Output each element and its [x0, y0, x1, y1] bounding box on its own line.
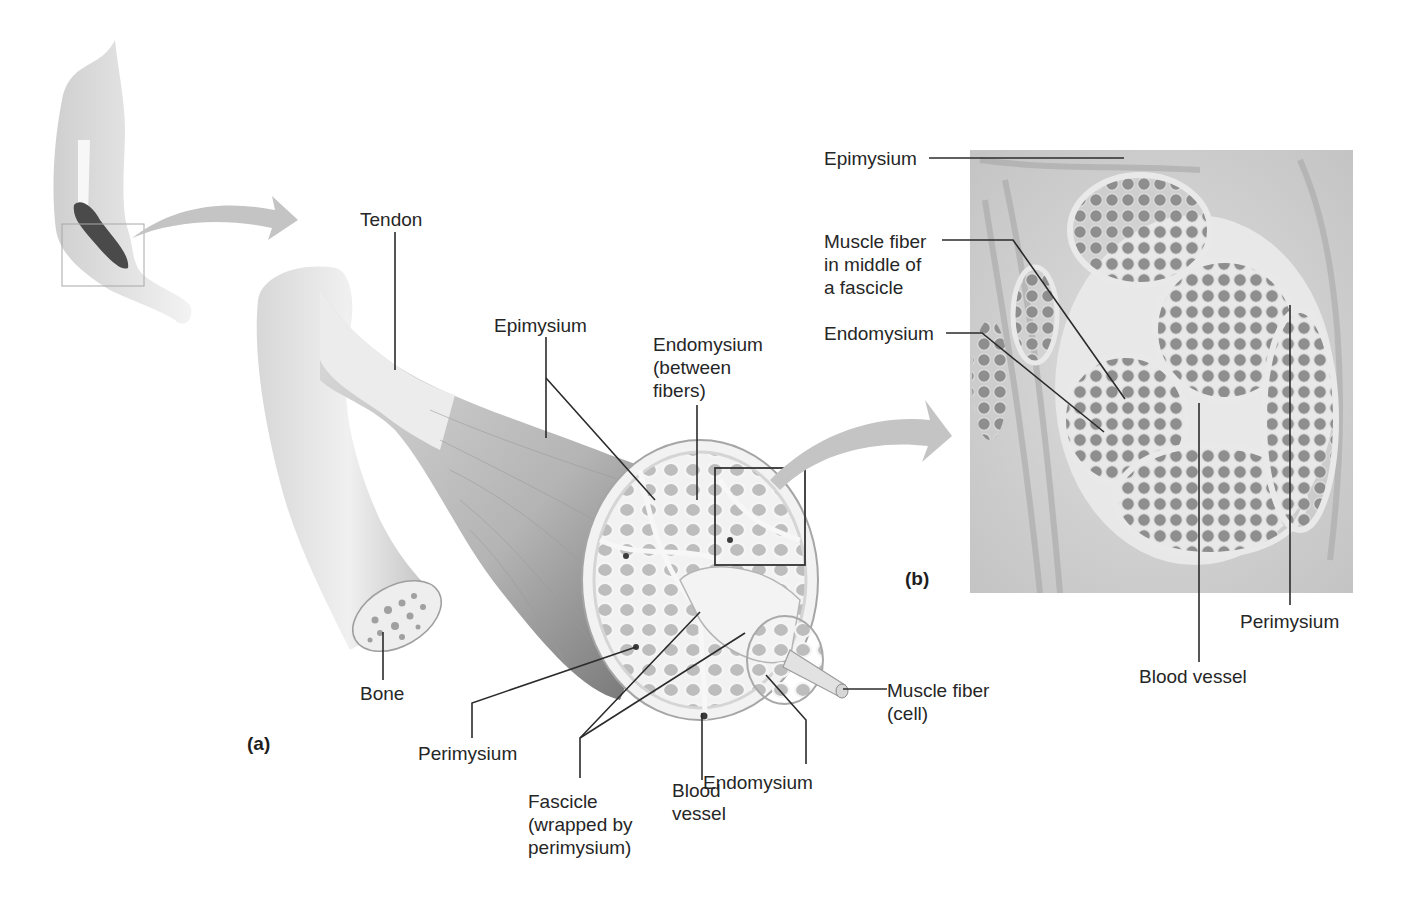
label-tendon: Tendon: [360, 208, 422, 231]
label-muscle-fiber-middle: Muscle fiber in middle of a fascicle: [824, 230, 926, 299]
label-epimysium-b: Epimysium: [824, 147, 917, 170]
panel-label-a: (a): [247, 733, 270, 755]
curved-arrow-icon: [132, 196, 298, 240]
figure-canvas: [0, 0, 1413, 897]
arm-icon: [54, 40, 192, 324]
label-perimysium: Perimysium: [418, 742, 517, 765]
label-epimysium: Epimysium: [494, 314, 587, 337]
micrograph: [970, 150, 1353, 593]
label-perimysium-b: Perimysium: [1240, 610, 1339, 633]
label-endomysium: Endomysium: [703, 771, 813, 794]
label-fascicle: Fascicle (wrapped by perimysium): [528, 790, 633, 859]
muscle-structure-figure: Tendon Epimysium Endomysium (between fib…: [0, 0, 1413, 897]
label-blood-vessel-b: Blood vessel: [1139, 665, 1247, 688]
muscle-illustration: [320, 290, 848, 720]
label-muscle-fiber-cell: Muscle fiber (cell): [887, 679, 989, 725]
label-bone: Bone: [360, 682, 404, 705]
curved-arrow-icon: [770, 400, 952, 490]
label-endomysium-b: Endomysium: [824, 322, 934, 345]
label-endomysium-between-fibers: Endomysium (between fibers): [653, 333, 763, 402]
panel-label-b: (b): [905, 568, 929, 590]
